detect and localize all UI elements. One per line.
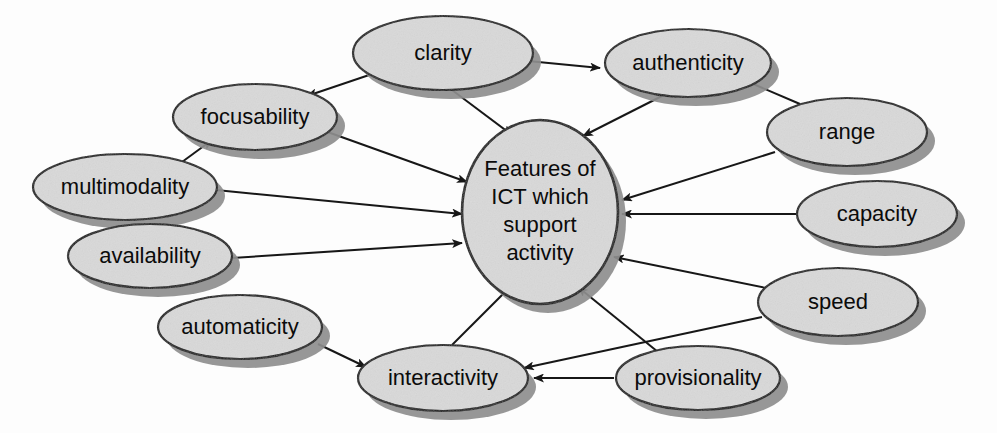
edge-availability-to-hub: [232, 243, 462, 258]
node-automaticity[interactable]: automaticity: [158, 295, 330, 368]
node-label-authenticity: authenticity: [632, 50, 743, 75]
node-label-interactivity: interactivity: [388, 365, 498, 390]
node-label-range: range: [819, 119, 875, 144]
edge-speed-to-hub: [614, 257, 766, 288]
node-label-speed: speed: [808, 289, 868, 314]
edge-authenticity-to-hub: [583, 96, 662, 136]
hub-label-line: ICT which: [491, 184, 588, 209]
diagram-canvas: Features ofICT whichsupportactivityclari…: [0, 0, 997, 433]
node-label-capacity: capacity: [837, 201, 918, 226]
node-hub[interactable]: Features ofICT whichsupportactivity: [462, 120, 626, 313]
node-label-availability: availability: [99, 243, 201, 268]
node-range[interactable]: range: [767, 98, 935, 175]
node-label-focusability: focusability: [201, 104, 310, 129]
node-speed[interactable]: speed: [758, 268, 926, 345]
node-availability[interactable]: availability: [68, 224, 240, 297]
edge-interactivity-to-hub: [452, 287, 510, 345]
edge-multimodality-to-hub: [216, 190, 462, 214]
node-focusability[interactable]: focusability: [173, 84, 345, 159]
node-provisionality[interactable]: provisionality: [616, 346, 788, 419]
node-label-clarity: clarity: [414, 40, 471, 65]
node-label-provisionality: provisionality: [634, 365, 761, 390]
nodes-layer: Features ofICT whichsupportactivityclari…: [33, 16, 965, 420]
node-authenticity[interactable]: authenticity: [605, 29, 779, 106]
hub-label-line: support: [503, 212, 576, 237]
hub-label-line: Features of: [484, 156, 596, 181]
node-clarity[interactable]: clarity: [353, 16, 541, 99]
node-interactivity[interactable]: interactivity: [358, 345, 536, 420]
edge-automaticity-to-interactivity: [318, 344, 366, 367]
concept-map-diagram: Features ofICT whichsupportactivityclari…: [0, 0, 997, 433]
node-multimodality[interactable]: multimodality: [33, 154, 225, 229]
node-label-multimodality: multimodality: [61, 174, 189, 199]
hub-label-line: activity: [506, 240, 573, 265]
node-capacity[interactable]: capacity: [797, 181, 965, 256]
node-label-automaticity: automaticity: [181, 314, 298, 339]
edge-range-to-hub: [622, 152, 775, 200]
edge-focusability-to-hub: [322, 130, 467, 182]
